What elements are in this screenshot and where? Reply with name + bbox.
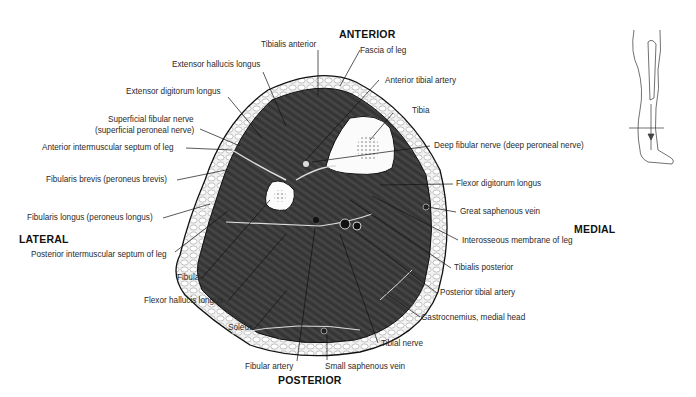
heading-anterior: ANTERIOR [339, 28, 395, 40]
anterior-tibial-vessel [303, 161, 309, 167]
label-posterior-intermuscular-septum: Posterior intermuscular septum of leg [31, 250, 167, 260]
label-flexor-hallucis-longus: Flexor hallucis longus [144, 296, 223, 306]
label-fibularis-brevis: Fibularis brevis (peroneus brevis) [46, 175, 167, 185]
label-fibula: Fibula [177, 273, 199, 283]
label-tibial-nerve: Tibial nerve [381, 339, 423, 349]
label-anterior-intermuscular-septum: Anterior intermuscular septum of leg [42, 143, 174, 153]
label-tibialis-anterior: Tibialis anterior [261, 40, 316, 50]
tibia-marrow [357, 135, 379, 161]
label-posterior-tibial-artery: Posterior tibial artery [440, 288, 515, 298]
posterior-tibial-vessel [340, 219, 350, 229]
heading-medial: MEDIAL [574, 223, 615, 235]
label-flexor-digitorum-longus: Flexor digitorum longus [456, 179, 541, 189]
label-fibularis-longus: Fibularis longus (peroneus longus) [27, 213, 153, 223]
leg-cross-section-illustration [0, 0, 696, 397]
label-fibular-artery: Fibular artery [245, 362, 293, 372]
label-gastrocnemius-medial-head: Gastrocnemius, medial head [421, 313, 525, 323]
label-soleus: Soleus [228, 323, 253, 333]
inset-leg-diagram [629, 30, 673, 164]
label-great-saphenous-vein: Great saphenous vein [460, 207, 540, 217]
label-anterior-tibial-artery: Anterior tibial artery [385, 76, 456, 86]
label-extensor-hallucis-longus: Extensor hallucis longus [172, 60, 260, 70]
heading-posterior: POSTERIOR [278, 374, 342, 386]
label-deep-fibular-nerve: Deep fibular nerve (deep peroneal nerve) [434, 141, 584, 151]
label-small-saphenous-vein: Small saphenous vein [325, 362, 405, 372]
label-tibialis-posterior: Tibialis posterior [454, 263, 513, 273]
label-tibia: Tibia [412, 106, 429, 116]
label-interosseous-membrane: Interosseous membrane of leg [462, 236, 573, 246]
label-superficial-peroneal-nerve: (superficial peroneal nerve) [95, 126, 194, 136]
label-extensor-digitorum-longus: Extensor digitorum longus [126, 87, 221, 97]
heading-lateral: LATERAL [19, 233, 69, 245]
label-superficial-fibular-nerve: Superficial fibular nerve [108, 115, 194, 125]
label-fascia-of-leg: Fascia of leg [360, 46, 406, 56]
small-saphenous-vein-vessel [321, 328, 327, 334]
fibular-artery-vessel [313, 217, 319, 223]
